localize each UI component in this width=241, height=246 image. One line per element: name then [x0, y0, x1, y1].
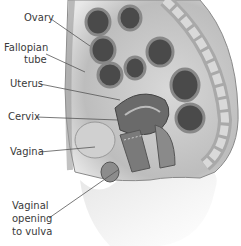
label-fallopian-tube-line1: Fallopian	[4, 42, 48, 54]
label-uterus: Uterus	[10, 78, 43, 90]
label-ovary: Ovary	[24, 12, 54, 24]
label-vaginal-opening-line1: Vaginal	[12, 200, 49, 212]
anatomy-illustration: Ovary Fallopian tube Uterus Cervix Vagin…	[0, 0, 241, 246]
label-vaginal-opening-line3: to vulva	[12, 226, 52, 238]
label-vaginal-opening-line2: opening	[12, 213, 52, 225]
label-vagina: Vagina	[10, 146, 44, 158]
label-fallopian-tube-line2: tube	[24, 54, 47, 66]
label-cervix: Cervix	[8, 111, 40, 123]
